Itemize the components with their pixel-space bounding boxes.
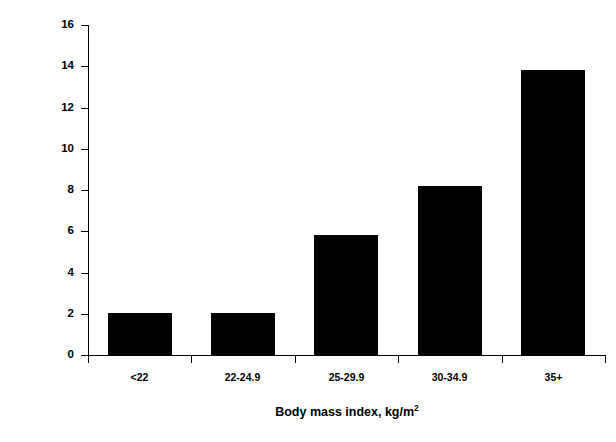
y-axis-tick-label-text: 2 (34, 308, 74, 320)
y-axis-tick-mark (81, 149, 88, 150)
x-axis-category-label: 22-24.9 (191, 371, 294, 383)
bar (108, 313, 172, 355)
y-axis-tick-label: 16 (30, 19, 74, 31)
x-axis-category-label: 35+ (502, 371, 605, 383)
y-axis-tick-label: 6 (30, 225, 74, 237)
x-axis-tick-mark (295, 356, 296, 363)
y-axis-line (88, 25, 89, 356)
y-axis-tick-label: 2 (30, 308, 74, 320)
y-axis-tick-label-text: 6 (34, 225, 74, 237)
y-axis-tick-mark (81, 355, 88, 356)
y-axis-tick-mark (81, 25, 88, 26)
y-axis-tick-mark (81, 190, 88, 191)
x-axis-category-label: 30-34.9 (398, 371, 501, 383)
x-axis-tick-mark (502, 356, 503, 363)
x-axis-tick-mark (398, 356, 399, 363)
x-axis-tick-mark (88, 356, 89, 363)
y-axis-tick-mark (81, 108, 88, 109)
y-axis-tick-label-text: 12 (34, 102, 74, 114)
bar (211, 313, 275, 355)
y-axis-tick-label-text: 8 (34, 184, 74, 196)
x-axis-category-label: 25-29.9 (295, 371, 398, 383)
x-axis-title-superscript: 2 (414, 403, 419, 413)
x-axis-line (88, 355, 606, 356)
y-axis-tick-label-text: 0 (34, 349, 74, 361)
x-axis-title-text: Body mass index, kg/m (275, 405, 414, 419)
y-axis-tick-label: 4 (30, 267, 74, 279)
y-axis-tick-label: 12 (30, 102, 74, 114)
y-axis-tick-label-text: 16 (34, 19, 74, 31)
y-axis-tick-mark (81, 314, 88, 315)
y-axis-tick-label: 0 (30, 349, 74, 361)
x-axis-tick-mark (191, 356, 192, 363)
y-axis-tick-label: 14 (30, 60, 74, 72)
bar (418, 186, 482, 355)
y-axis-tick-label: 8 (30, 184, 74, 196)
y-axis-tick-mark (81, 273, 88, 274)
bar (314, 235, 378, 355)
bar-chart: % of Adults 0246810121416 <2222-24.925-2… (0, 0, 616, 442)
y-axis-tick-label-text: 10 (34, 143, 74, 155)
y-axis-tick-mark (81, 66, 88, 67)
y-axis-tick-label-text: 14 (34, 60, 74, 72)
bar (521, 70, 585, 355)
x-axis-title: Body mass index, kg/m2 (88, 405, 606, 419)
y-axis-tick-label-text: 4 (34, 267, 74, 279)
y-axis-tick-mark (81, 231, 88, 232)
x-axis-tick-mark (605, 356, 606, 363)
y-axis-tick-label: 10 (30, 143, 74, 155)
x-axis-category-label: <22 (88, 371, 191, 383)
